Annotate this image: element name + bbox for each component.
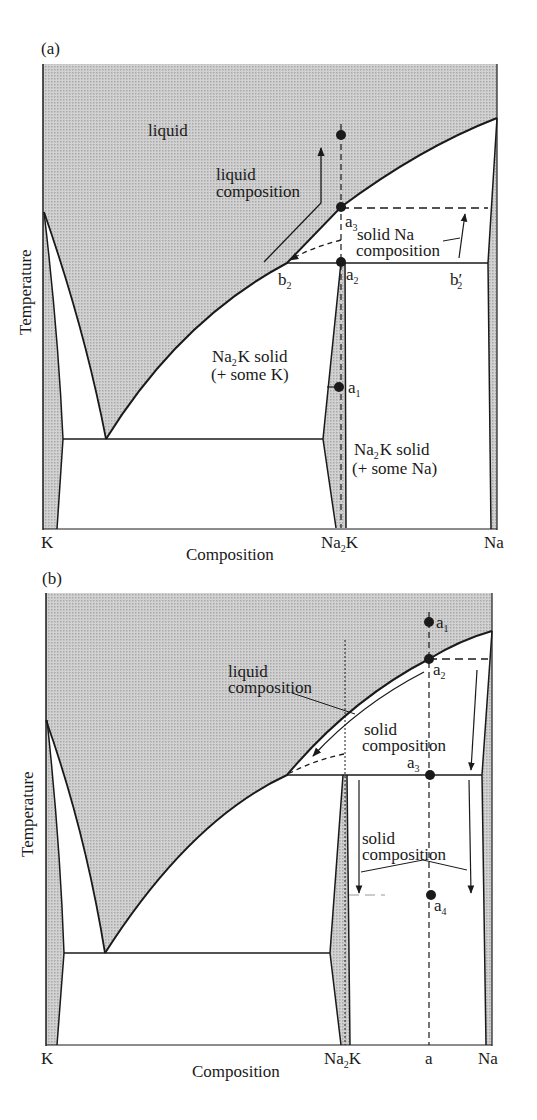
liquid-composition-label-2: composition	[216, 182, 301, 201]
point-b2-label: b2	[278, 270, 292, 291]
panel-a-label: (a)	[41, 39, 60, 58]
x-tick-na-b: Na	[478, 1049, 498, 1068]
na2k-na-label-2: (+ some Na)	[352, 459, 437, 478]
x-tick-na2k-a: Na2K	[321, 533, 359, 554]
na2k-k-label-2: (+ some K)	[211, 365, 289, 384]
y-axis-label-b: Temperature	[18, 771, 37, 857]
liquid-region-b	[46, 593, 492, 953]
x-tick-na2k-b: Na2K	[324, 1049, 362, 1070]
panel-b: (b)	[18, 569, 498, 1081]
panel-b-label: (b)	[42, 569, 62, 588]
point-a4-label-b: a4	[434, 896, 447, 917]
point-a3-label-b: a3	[407, 753, 420, 774]
phase-diagram-figure: (a)	[0, 0, 537, 1120]
point-a3-b	[425, 770, 435, 780]
solid-composition-upper-label-2: composition	[362, 736, 447, 755]
solid-na-label-2: composition	[356, 241, 441, 260]
point-b2-prime-label: b′2	[450, 270, 462, 291]
solid-na-composition-arrow-a	[459, 214, 465, 258]
x-tick-k-a: K	[41, 533, 54, 552]
start-point-a	[336, 130, 346, 140]
solid-composition-lower-label-2: composition	[362, 845, 447, 864]
x-tick-a-b: a	[425, 1049, 433, 1068]
panel-a: (a)	[16, 39, 504, 564]
point-a1-label: a1	[348, 378, 361, 399]
region-liquid-label: liquid	[148, 121, 188, 140]
liquid-composition-label-b-2: composition	[228, 678, 313, 697]
point-a2-label-b: a2	[433, 660, 446, 681]
solid-composition-arrow-lower-right-b	[469, 780, 471, 893]
solid-composition-arrow-upper-b	[471, 670, 477, 770]
na2k-na-label-1: Na2K solid	[354, 440, 430, 461]
point-a2-label: a2	[346, 265, 359, 286]
point-a2-a	[336, 257, 346, 267]
point-a1-b	[424, 617, 434, 627]
x-tick-na-a: Na	[484, 533, 504, 552]
na2k-solid-lens-a	[323, 262, 346, 528]
x-tick-k-b: K	[41, 1049, 54, 1068]
point-a1-a	[334, 382, 344, 392]
point-a3-label: a3	[345, 212, 358, 233]
point-a3-a	[336, 202, 346, 212]
solid-na-leader-a	[443, 238, 460, 241]
x-axis-label-b: Composition	[192, 1062, 280, 1081]
y-axis-label-a: Temperature	[16, 249, 35, 335]
x-axis-label-a: Composition	[186, 545, 274, 564]
